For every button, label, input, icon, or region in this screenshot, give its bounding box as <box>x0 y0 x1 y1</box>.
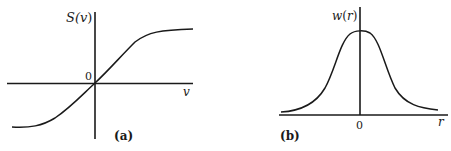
panel-a-caption: (a) <box>114 129 133 143</box>
panel-b-origin-label: 0 <box>356 119 363 132</box>
figure: S(v) 0 v (a) w(r) 0 r (b) <box>0 0 451 151</box>
panel-a-sigmoid: S(v) 0 v (a) <box>7 10 193 143</box>
panel-a-sigmoid-curve <box>12 29 193 127</box>
panel-a-origin-label: 0 <box>85 70 92 83</box>
panel-b-bell-curve: w(r) 0 r (b) <box>279 7 448 143</box>
panel-a-xlabel: v <box>183 85 190 99</box>
panel-a-ylabel: S(v) <box>66 10 92 25</box>
panel-b-ylabel: w(r) <box>332 9 357 23</box>
panel-b-caption: (b) <box>280 129 300 143</box>
panel-b-xlabel: r <box>438 115 445 129</box>
